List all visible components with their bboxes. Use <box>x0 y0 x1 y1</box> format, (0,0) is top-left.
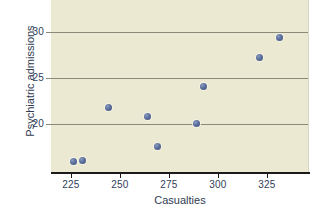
x-tick-250 <box>120 174 121 178</box>
x-tick-label-225: 225 <box>51 179 91 190</box>
data-point <box>154 143 161 150</box>
plot-panel <box>51 0 309 172</box>
data-point <box>256 54 263 61</box>
gridline-20 <box>51 124 308 125</box>
x-axis-line <box>51 172 310 174</box>
y-tick-20 <box>46 124 51 125</box>
data-point <box>70 158 77 165</box>
data-point <box>105 104 112 111</box>
data-point <box>200 83 207 90</box>
scatter-plot-figure: 225 250 275 300 325 30 25 20 Casualties … <box>0 0 321 217</box>
data-point <box>144 113 151 120</box>
data-point <box>276 34 283 41</box>
x-tick-label-300: 300 <box>198 179 238 190</box>
x-tick-label-250: 250 <box>100 179 140 190</box>
x-tick-300 <box>218 174 219 178</box>
gridline-30 <box>51 32 308 33</box>
x-tick-225 <box>71 174 72 178</box>
y-axis-title: Psychiatric admissions <box>24 1 36 161</box>
x-tick-325 <box>267 174 268 178</box>
x-tick-275 <box>169 174 170 178</box>
y-tick-25 <box>46 78 51 79</box>
x-tick-label-275: 275 <box>149 179 189 190</box>
gridline-25 <box>51 78 308 79</box>
x-axis-title: Casualties <box>51 194 309 206</box>
x-tick-label-325: 325 <box>247 179 287 190</box>
y-tick-30 <box>46 32 51 33</box>
data-point <box>193 120 200 127</box>
data-point <box>79 157 86 164</box>
